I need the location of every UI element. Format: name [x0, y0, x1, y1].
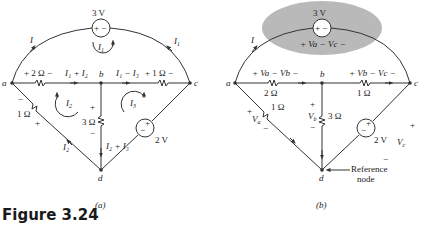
wire-cd: [152, 83, 190, 121]
resistor-1ohm-label-a: + 1 Ω −: [145, 68, 173, 78]
resistor-ad-value-a: 1 Ω: [17, 109, 31, 119]
wire-bc: [101, 80, 190, 86]
node-b-label: b: [99, 69, 104, 79]
source-3v-value-b: 3 V: [313, 8, 327, 18]
Vc-label: Vc: [397, 137, 406, 148]
wire-bd: [98, 83, 104, 170]
source-3v-polarity-a: + −: [94, 23, 106, 33]
branch-bc-current: I₁ − I₃: [115, 68, 139, 78]
source-2v-plus-a: +: [145, 118, 150, 128]
node-a-label: a: [2, 78, 7, 88]
resistor-ab-voltage-label: + Va − Vb −: [252, 68, 298, 78]
branch-ab-current: I₁ + I₂: [64, 68, 88, 78]
mesh-I2-label: I2: [65, 98, 72, 109]
Va-label: Va: [252, 114, 261, 125]
resistor-bc-value-b: 1 Ω: [357, 88, 371, 98]
resistor-bd-minus: −: [90, 128, 95, 138]
current-I-label-a: I: [29, 35, 34, 45]
resistor-bd-plus: +: [90, 102, 95, 112]
node-b-label-b: b: [320, 69, 325, 79]
mesh-I1-label: I1: [97, 42, 104, 53]
current-I1-label-arc: I1: [173, 36, 180, 47]
source-2v-value-b: 2 V: [374, 135, 388, 145]
panel-a: [12, 19, 190, 170]
resistor-ad-minus: −: [18, 94, 23, 104]
node-d-label-b: d: [319, 173, 324, 183]
Va-minus: −: [263, 123, 268, 133]
source-3v-value-a: 3 V: [92, 8, 106, 18]
resistor-bd-value-a: 3 Ω: [82, 117, 96, 127]
source-2v-plus-b: +: [366, 118, 371, 128]
Vc-plus: +: [410, 120, 415, 130]
resistor-bc-voltage-label: + Vb − Vc −: [349, 68, 396, 78]
resistor-ad-value-b: 1 Ω: [271, 102, 285, 112]
figure-title: Figure 3.24: [2, 206, 99, 224]
mesh-I3-label: I3: [129, 98, 136, 109]
node-c-label: c: [194, 78, 198, 88]
caption-b: (b): [316, 200, 327, 210]
resistor-2ohm-label-a: + 2 Ω −: [24, 68, 52, 78]
source-3v-polarity-b: + −: [315, 23, 327, 33]
resistor-bd-value-b: 3 Ω: [328, 111, 342, 121]
Vc-minus: −: [383, 154, 388, 164]
node-c-label-b: c: [414, 78, 418, 88]
branch-bd-current: I₂ + I₃: [105, 141, 129, 151]
source-2v-minus-b: −: [361, 125, 366, 135]
circuit-diagram: 3 V + − I I1 I1 I2 I3 a b c d + 2 Ω − I₁…: [0, 0, 423, 228]
resistor-ad-plus: +: [35, 118, 40, 128]
Vb-label: Vb: [308, 111, 317, 122]
Vb-plus: +: [310, 99, 315, 109]
source-3v-voltage-label: + Va − Vc −: [300, 39, 346, 49]
source-2v-value-a: 2 V: [155, 135, 169, 145]
node-d-label: d: [98, 173, 103, 183]
reference-node-line1: Reference: [351, 164, 387, 174]
branch-ad-current: I₂: [62, 142, 69, 152]
source-2v-minus-a: −: [140, 125, 145, 135]
resistor-ab-value-b: 2 Ω: [264, 88, 278, 98]
reference-node-line2: node: [357, 174, 375, 184]
wire-ab: [12, 80, 101, 86]
Vb-minus: −: [310, 122, 315, 132]
node-a-label-b: a: [226, 78, 231, 88]
current-I-label-b: I: [250, 35, 255, 45]
